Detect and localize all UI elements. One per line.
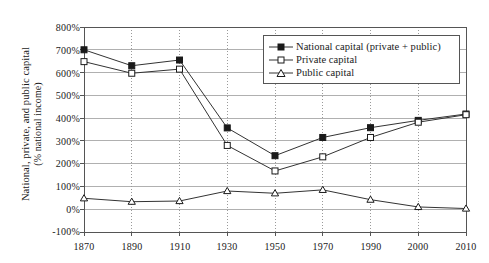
open-square-icon: [268, 54, 294, 66]
legend-item-public-capital: Public capital: [268, 66, 454, 79]
data-point-marker: [415, 119, 421, 125]
legend-label-national-capital: National capital (private + public): [294, 41, 441, 53]
legend-item-private-capital: Private capital: [268, 53, 454, 66]
filled-square-icon: [268, 41, 294, 53]
data-point-marker: [272, 168, 278, 174]
data-point-marker: [224, 187, 231, 193]
open-triangle-icon: [268, 67, 294, 79]
legend-label-private-capital: Private capital: [294, 54, 357, 66]
data-point-marker: [272, 153, 278, 159]
legend-item-national-capital: National capital (private + public): [268, 40, 454, 53]
data-point-marker: [129, 70, 135, 76]
data-point-marker: [81, 59, 87, 65]
legend-label-public-capital: Public capital: [294, 67, 354, 79]
data-point-marker: [320, 154, 326, 160]
data-point-marker: [129, 63, 135, 69]
chart-legend: National capital (private + public) Priv…: [263, 35, 460, 84]
data-point-marker: [224, 142, 230, 148]
data-point-marker: [463, 112, 469, 118]
data-point-marker: [177, 57, 183, 63]
data-point-marker: [80, 195, 87, 201]
data-point-marker: [81, 47, 87, 53]
data-point-marker: [319, 186, 326, 192]
data-point-marker: [177, 66, 183, 72]
data-point-marker: [320, 134, 326, 140]
capital-line-chart: National, private, and public capital (%…: [0, 0, 489, 263]
data-point-marker: [368, 134, 374, 140]
data-point-marker: [224, 125, 230, 131]
data-point-marker: [368, 125, 374, 131]
